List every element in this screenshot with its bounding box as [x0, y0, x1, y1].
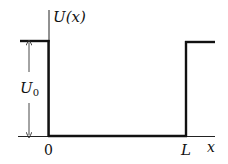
right-edge-label: L — [180, 141, 191, 159]
well-depth-subscript: 0 — [33, 87, 39, 98]
potential-well-diagram: U(x) U0 0 L x — [0, 0, 228, 164]
y-axis-label: U(x) — [53, 8, 86, 26]
x-axis-label: x — [207, 139, 215, 155]
well-depth-label: U0 — [20, 79, 39, 98]
left-edge-label: 0 — [44, 142, 53, 158]
